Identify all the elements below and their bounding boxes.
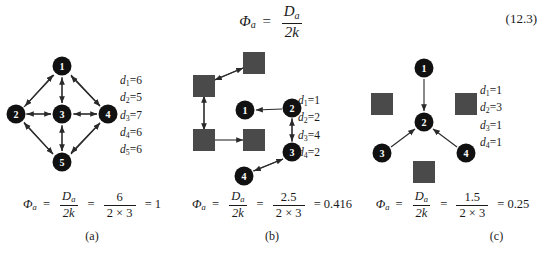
degree-index: 2 [126,96,130,105]
formula-fraction-symbolic: Da 2k [412,190,431,220]
svg-text:4: 4 [464,148,469,159]
main-equation-denominator: 2k [282,23,302,41]
formula-lhs: Φ [376,197,386,211]
degree-index: 1 [304,99,308,108]
svg-text:2: 2 [290,103,295,114]
main-equation-lhs: Φ [239,13,250,29]
panel-caption-c: (c) [362,229,545,244]
svg-text:1: 1 [60,61,65,72]
formula-lhs-subscript: a [33,202,37,212]
svg-text:3: 3 [290,147,295,158]
degree-value: 6 [136,143,142,155]
formula-fraction-symbolic: Da 2k [59,190,78,220]
degree-index: 4 [486,141,490,150]
degree-value: 2 [314,146,320,158]
graph-diagram-b: 1 2 3 4 [182,48,362,188]
svg-text:2: 2 [422,117,427,128]
formula-denominator: 2k [229,205,247,220]
svg-text:2: 2 [14,109,19,120]
square-node [413,161,435,183]
equation-number: (12.3) [506,11,537,27]
formula-result: 1 [155,197,161,211]
graph-a-nodes: 1 2 3 4 5 [7,57,118,172]
formula-numerator: D [62,189,71,203]
panel-caption-a: (a) [2,229,208,244]
main-equation-lhs-subscript: a [251,19,256,30]
degree-item: d1=1 [480,82,502,99]
panel-formula-a: Φa = Da 2k = 6 2 × 3 =1 [2,190,194,220]
degree-item: d4=6 [120,124,142,141]
formula-numerator: D [231,189,240,203]
degree-index: 4 [304,151,308,160]
degree-item: d5=6 [120,141,142,158]
formula-fraction-numeric: 6 2 × 3 [104,191,136,220]
degree-item: d2=2 [298,109,320,126]
formula-result: 0.25 [507,197,529,211]
formula-denominator: 2k [60,205,78,220]
degree-item: d3=1 [480,117,502,134]
panel-c: 1 2 3 4 d1=1 d2=3 d3=1 d4=1 Φa = Da 2k =… [362,48,543,256]
degree-list-c: d1=1 d2=3 d3=1 d4=1 [480,82,502,151]
formula-value-numerator: 2.5 [278,191,300,205]
degree-item: d1=1 [298,92,320,109]
svg-text:3: 3 [380,148,385,159]
formula-value-numerator: 6 [113,191,125,205]
degree-index: 4 [126,131,130,140]
degree-index: 1 [486,89,490,98]
degree-item: d3=7 [120,107,142,124]
panel-formula-b: Φa = Da 2k = 2.5 2 × 3 =0.416 [182,190,368,220]
panel-caption-b: (b) [182,229,370,244]
degree-value: 6 [136,74,142,86]
formula-value-denominator: 2 × 3 [456,205,488,220]
svg-text:3: 3 [60,109,65,120]
degree-value: 4 [314,129,320,141]
formula-value-denominator: 2 × 3 [273,205,305,220]
degree-value: 1 [496,119,502,131]
degree-index: 5 [126,148,130,157]
square-node [243,129,265,151]
svg-text:1: 1 [422,63,427,74]
degree-value: 7 [136,109,142,121]
svg-text:4: 4 [242,171,247,182]
degree-item: d2=5 [120,89,142,106]
degree-item: d1=6 [120,72,142,89]
degree-list-a: d1=6 d2=5 d3=7 d4=6 d5=6 [120,72,142,158]
degree-value: 6 [136,126,142,138]
formula-value-denominator: 2 × 3 [104,205,136,220]
formula-numerator-subscript: a [240,194,244,204]
svg-text:5: 5 [60,157,65,168]
formula-value-numerator: 1.5 [461,191,483,205]
degree-value: 2 [314,111,320,123]
degree-value: 1 [314,94,320,106]
formula-lhs: Φ [192,197,202,211]
degree-item: d4=1 [480,134,502,151]
svg-text:1: 1 [243,105,248,116]
degree-index: 3 [126,114,130,123]
degree-index: 3 [304,134,308,143]
degree-item: d3=4 [298,127,320,144]
degree-value: 5 [136,91,142,103]
formula-numerator: D [415,189,424,203]
formula-result: 0.416 [324,197,352,211]
main-equation-numerator-subscript: a [295,10,300,21]
square-node [371,93,393,115]
degree-index: 2 [486,106,490,115]
square-node [243,52,265,74]
graph-diagram-a: 1 2 3 4 5 [2,48,182,188]
main-equation-fraction: Da 2k [281,4,303,40]
formula-lhs-subscript: a [202,202,206,212]
formula-denominator: 2k [413,205,431,220]
degree-index: 3 [486,124,490,133]
degree-item: d4=2 [298,144,320,161]
formula-numerator-subscript: a [424,194,428,204]
degree-value: 1 [496,136,502,148]
degree-index: 2 [304,116,308,125]
main-equation-equals: = [263,13,271,29]
svg-text:4: 4 [106,109,111,120]
graph-b-edges [204,68,292,171]
square-node [455,93,477,115]
panel-b: 1 2 3 4 d1=1 d2=2 d3=4 d4=2 Φa = Da 2k =… [182,48,362,256]
panel-formula-c: Φa = Da 2k = 1.5 2 × 3 =0.25 [362,190,545,220]
formula-fraction-numeric: 1.5 2 × 3 [456,191,488,220]
degree-index: 1 [126,79,130,88]
